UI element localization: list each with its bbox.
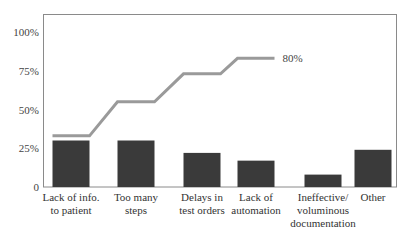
category-label: Lack of info. <box>42 191 99 203</box>
y-tick-label: 25% <box>19 142 39 154</box>
bar <box>53 141 90 188</box>
y-axis-ticks: 025%50%75%100% <box>13 26 39 193</box>
cumulative-annotation: 80% <box>283 52 303 64</box>
y-tick-label: 0 <box>34 181 40 193</box>
category-label: voluminous <box>297 204 349 216</box>
category-label: test orders <box>179 204 225 216</box>
pareto-chart: 025%50%75%100% 80% Lack of info.to patie… <box>0 0 414 237</box>
category-label: documentation <box>290 217 356 229</box>
bar <box>305 175 342 187</box>
category-label: automation <box>231 204 281 216</box>
category-label: steps <box>125 204 147 216</box>
y-tick-label: 100% <box>13 26 39 38</box>
category-label: to patient <box>50 204 91 216</box>
bar <box>238 161 275 187</box>
category-label: Other <box>360 191 385 203</box>
bars <box>53 141 392 188</box>
category-label: Too many <box>114 191 159 203</box>
cumulative-line <box>53 58 275 136</box>
bar <box>355 150 392 187</box>
y-tick-label: 50% <box>19 104 39 116</box>
bar <box>184 153 221 187</box>
category-label: Lack of <box>239 191 273 203</box>
category-label: Ineffective/ <box>298 191 349 203</box>
bar <box>118 141 155 188</box>
category-label: Delays in <box>181 191 223 203</box>
x-axis-categories: Lack of info.to patientToo manystepsDela… <box>42 191 385 229</box>
y-tick-label: 75% <box>19 65 39 77</box>
